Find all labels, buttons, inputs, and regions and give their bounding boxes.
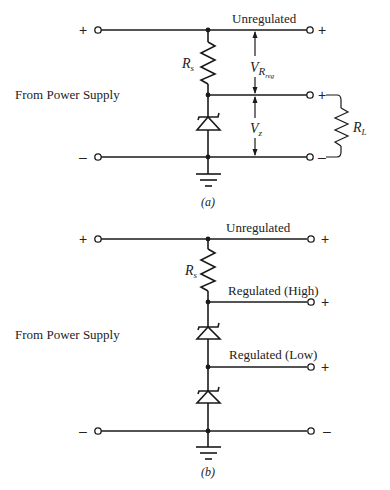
junction-dot (206, 93, 211, 98)
out-mid-sign: + (318, 87, 326, 103)
input-minus-sign: – (79, 423, 87, 439)
out-bottom-sign: – (318, 149, 326, 165)
source-label: From Power Supply (15, 327, 120, 342)
junction-dot (206, 365, 211, 370)
input-minus-sign: – (79, 149, 87, 165)
series-resistor-label: Rs (184, 263, 198, 280)
input-plus-terminal (95, 236, 101, 242)
out-bottom-sign: – (323, 423, 331, 439)
figure-a: + – From Power Supply Unregulated + + – … (15, 11, 367, 209)
zener-regulator-diagrams: + – From Power Supply Unregulated + + – … (0, 0, 390, 490)
source-label: From Power Supply (15, 87, 120, 102)
unregulated-label: Unregulated (226, 220, 291, 235)
load-resistor-icon (326, 95, 348, 157)
input-minus-terminal (95, 154, 101, 160)
junction-dot (206, 28, 211, 33)
series-resistor-label: Rs (181, 56, 195, 73)
output-minus-terminal (307, 154, 313, 160)
output-minus-terminal (308, 428, 314, 434)
series-resistor-icon (201, 249, 215, 291)
regulated-output-terminal (307, 92, 313, 98)
input-minus-terminal (95, 428, 101, 434)
junction-dot (206, 429, 211, 434)
input-plus-sign: + (79, 22, 87, 38)
voltage-reg-label: VRreg (250, 60, 275, 80)
regulated-high-terminal (308, 299, 314, 305)
caption-b: (b) (201, 465, 215, 479)
out-top-sign: + (321, 231, 329, 247)
regulated-high-label: Regulated (High) (228, 283, 319, 298)
input-plus-sign: + (79, 231, 87, 247)
unregulated-label: Unregulated (232, 11, 297, 26)
series-resistor-icon (201, 42, 215, 84)
regulated-low-label: Regulated (Low) (229, 347, 317, 362)
figure-b: + – From Power Supply Unregulated Regula… (15, 220, 331, 479)
load-resistor-label: RL (352, 120, 367, 137)
regulated-low-terminal (308, 364, 314, 370)
junction-dot (206, 300, 211, 305)
voltage-zener-label: Vz (250, 121, 263, 138)
unregulated-output-terminal (307, 27, 313, 33)
out-low-sign: + (321, 359, 329, 375)
ground-icon (196, 447, 221, 459)
unregulated-output-terminal (308, 236, 314, 242)
caption-a: (a) (201, 195, 215, 209)
ground-icon (196, 174, 221, 186)
junction-dot (206, 237, 211, 242)
out-high-sign: + (321, 294, 329, 310)
input-plus-terminal (95, 27, 101, 33)
out-top-sign: + (318, 22, 326, 38)
junction-dot (206, 155, 211, 160)
